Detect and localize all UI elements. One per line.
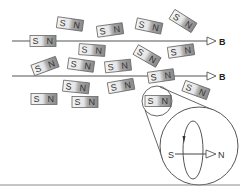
north-pole-label: N: [47, 36, 54, 46]
bar-magnet: SN: [30, 36, 56, 47]
north-pole-label: N: [89, 97, 96, 107]
north-pole-label: N: [121, 60, 129, 71]
bar-magnet: SN: [72, 97, 98, 108]
arrowhead-icon: [207, 37, 216, 45]
magnetic-domains-diagram: BB SNSNSNSNSNSNSNSNSNSNSNSNSNSNSNSNSNSN …: [0, 0, 240, 191]
bar-magnet: SN: [135, 18, 163, 34]
bar-magnet: SN: [62, 80, 89, 94]
north-pole-label: N: [48, 94, 55, 104]
south-pole-label: S: [34, 94, 40, 104]
bar-magnet: SN: [104, 59, 131, 73]
south-pole-label: S: [107, 62, 114, 73]
north-pole-label: N: [164, 70, 172, 81]
bar-magnet: SN: [56, 17, 83, 32]
field-label-b: B: [219, 72, 226, 82]
bar-magnet: SN: [31, 56, 59, 75]
north-pole-label: N: [84, 61, 92, 72]
bar-magnet: SN: [169, 9, 197, 32]
north-pole-label: N: [79, 83, 87, 94]
bar-magnet: SN: [96, 23, 123, 38]
south-pole-label: S: [81, 45, 88, 55]
dipole-south-label: S: [168, 150, 174, 160]
south-pole-label: S: [33, 36, 39, 46]
bar-magnet: SN: [147, 69, 174, 84]
south-pole-label: S: [75, 97, 81, 107]
south-pole-label: S: [65, 81, 72, 92]
bar-magnet: SN: [145, 96, 171, 107]
bar-magnet: SN: [167, 44, 194, 59]
bar-magnet: SN: [182, 80, 210, 99]
north-pole-label: N: [95, 46, 102, 56]
bar-magnet: SN: [79, 44, 106, 57]
north-pole-label: N: [162, 96, 169, 106]
dipole-north-label: N: [218, 150, 225, 160]
field-label-b: B: [219, 37, 226, 47]
north-pole-label: N: [113, 24, 121, 35]
magnets-group: SNSNSNSNSNSNSNSNSNSNSNSNSNSNSNSNSNSN: [30, 9, 210, 107]
arrowhead-icon: [207, 72, 216, 80]
field-line-2: B: [12, 72, 226, 82]
north-pole-label: N: [184, 45, 192, 56]
bar-magnet: SN: [31, 94, 57, 105]
north-pole-label: N: [73, 20, 81, 31]
bar-magnet: SN: [133, 45, 161, 68]
south-pole-label: S: [148, 96, 154, 106]
bar-magnet: SN: [107, 78, 135, 93]
bar-magnet: SN: [67, 58, 94, 73]
